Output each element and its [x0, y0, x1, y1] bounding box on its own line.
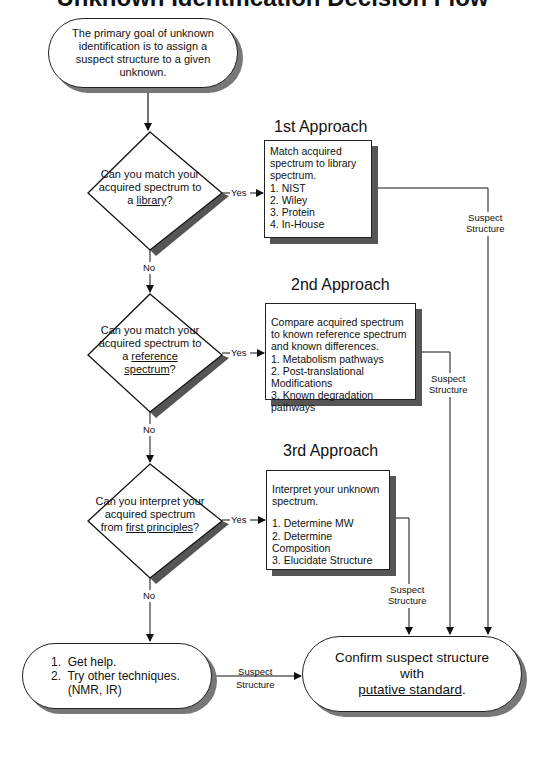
fallback-item: 2. Try other techniques.	[51, 669, 180, 683]
approach-3-heading: 3rd Approach	[283, 442, 378, 460]
approach-2-item: 3. Known degradation pathways	[271, 389, 410, 413]
fallback-node: 1. Get help. 2. Try other techniques. (N…	[22, 643, 212, 709]
first-principles-term: first principles	[126, 521, 193, 533]
decision-1-yes-label: Yes	[231, 187, 247, 198]
fallback-item: 1. Get help.	[51, 655, 180, 669]
decision-1-question: Can you match your acquired spectrum to …	[98, 168, 202, 207]
approach-1-item: 4. In-House	[270, 218, 366, 230]
approach-1-item: 1. NIST	[270, 182, 366, 194]
approach-3-item: 3. Elucidate Structure	[272, 554, 384, 566]
approach-1-box: Match acquired spectrum to library spect…	[264, 140, 372, 238]
approach-3-item: 2. Determine Composition	[272, 530, 384, 554]
approach-1-intro: Match acquired spectrum to library spect…	[270, 145, 366, 182]
library-term: library	[137, 194, 167, 206]
approach-1-output-label: Suspect Structure	[466, 212, 505, 234]
decision-2-no-label: No	[143, 424, 155, 435]
decision-3-no-label: No	[143, 590, 155, 601]
decision-2-question: Can you match your acquired spectrum to …	[98, 324, 202, 376]
approach-2-item: 2. Post-translational Modifications	[271, 365, 410, 389]
approach-2-heading: 2nd Approach	[291, 276, 390, 294]
decision-1-no-label: No	[143, 262, 155, 273]
approach-1-item: 2. Wiley	[270, 194, 366, 206]
approach-2-intro: Compare acquired spectrum to known refer…	[271, 316, 410, 353]
decision-2-yes-label: Yes	[231, 347, 247, 358]
approach-3-intro: Interpret your unknown spectrum.	[272, 483, 384, 507]
approach-2-item: 1. Metabolism pathways	[271, 353, 410, 365]
approach-1-heading: 1st Approach	[274, 118, 367, 136]
start-text: The primary goal of unknown identificati…	[67, 27, 219, 79]
decision-3-question: Can you interpret your acquired spectrum…	[94, 495, 206, 534]
approach-3-output-label: Suspect Structure	[388, 584, 427, 606]
fallback-item: (NMR, IR)	[51, 683, 180, 697]
putative-standard-term: putative standard	[358, 682, 462, 697]
end-line-2: with	[335, 666, 489, 682]
fallback-output-label: Suspect Structure	[236, 666, 275, 690]
approach-3-item: 1. Determine MW	[272, 517, 384, 529]
approach-3-box: Interpret your unknown spectrum. 1. Dete…	[266, 470, 390, 570]
start-node: The primary goal of unknown identificati…	[48, 18, 238, 88]
approach-2-box: Compare acquired spectrum to known refer…	[265, 303, 416, 400]
end-line-1: Confirm suspect structure	[335, 650, 489, 666]
decision-3-yes-label: Yes	[231, 514, 247, 525]
end-node: Confirm suspect structure with putative …	[302, 636, 522, 712]
approach-1-item: 3. Protein	[270, 206, 366, 218]
approach-2-output-label: Suspect Structure	[429, 373, 468, 395]
